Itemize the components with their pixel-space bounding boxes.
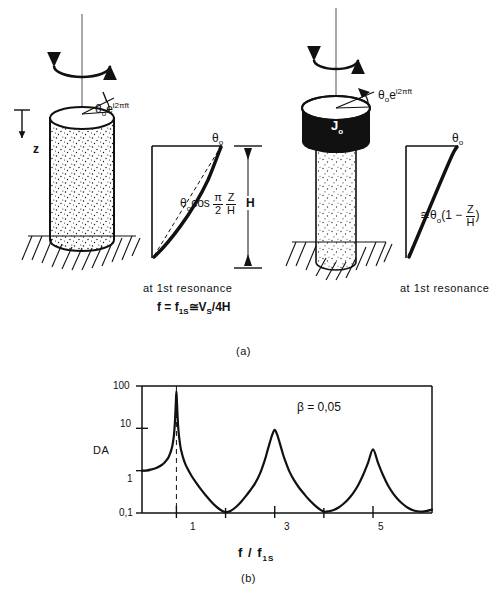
- chart-ytick-10: 10: [120, 418, 131, 429]
- chart-y-axis-label: DA: [93, 444, 109, 456]
- right-excitation-label: θoei2πft: [378, 87, 412, 104]
- chart-x-ticks: [176, 506, 373, 518]
- right-mode-shape-formula: ≅θo(1 − ZH): [420, 204, 479, 228]
- left-mode-shape-formula: θocos π2 ZH: [180, 192, 236, 216]
- chart-xtick-3: 3: [284, 521, 290, 532]
- figure-root: θoei2πft z θo θocos π2 ZH H at 1st reson…: [0, 0, 503, 590]
- chart-ytick-0.1: 0,1: [119, 507, 133, 518]
- da-response-curve: [142, 391, 432, 512]
- left-depth-axis-label: z: [33, 142, 39, 156]
- chart-xtick-5: 5: [378, 521, 384, 532]
- chart-x-axis-label: f / f1S: [238, 545, 274, 563]
- left-resonance-formula: f = f1S≅VS/4H: [157, 300, 231, 316]
- chart-beta-annotation: β = 0,05: [297, 400, 341, 414]
- chart-ytick-100: 100: [113, 380, 130, 391]
- top-mass-label: Jo: [331, 118, 343, 136]
- right-resonance-note: at 1st resonance: [400, 282, 489, 294]
- right-specimen-drawing: [258, 4, 418, 304]
- right-amplitude-label: θo: [452, 131, 463, 147]
- height-label: H: [244, 196, 257, 210]
- panel-b-label: (b): [241, 572, 256, 584]
- chart-ytick-1: 1: [127, 473, 133, 484]
- chart-xtick-1: 1: [190, 521, 196, 532]
- chart-y-ticks: [136, 386, 150, 513]
- panel-a-label: (a): [236, 345, 251, 357]
- left-amplitude-label: θo: [212, 131, 223, 147]
- dynamic-amplification-chart: [142, 384, 438, 520]
- left-resonance-note: at 1st resonance: [143, 282, 232, 294]
- left-excitation-label: θoei2πft: [95, 101, 129, 118]
